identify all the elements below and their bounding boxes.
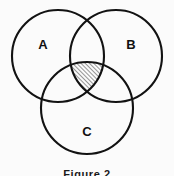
- set-label-a: A: [38, 37, 48, 52]
- venn-diagram-figure: A B C Figure 2: [0, 0, 174, 176]
- venn-diagram-canvas: A B C: [0, 0, 174, 176]
- set-label-b: B: [126, 37, 135, 52]
- figure-caption: Figure 2: [0, 168, 174, 176]
- set-label-c: C: [82, 124, 92, 139]
